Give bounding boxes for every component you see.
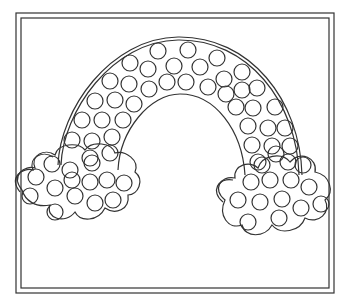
left-cloud	[18, 144, 140, 219]
rainbow-dots	[64, 42, 298, 170]
coloring-page	[0, 0, 346, 300]
left-cloud-dots	[22, 155, 132, 220]
rainbow-outer-edge	[58, 37, 302, 175]
rainbow-illustration	[0, 0, 346, 300]
rainbow-inner-edge	[118, 94, 245, 175]
